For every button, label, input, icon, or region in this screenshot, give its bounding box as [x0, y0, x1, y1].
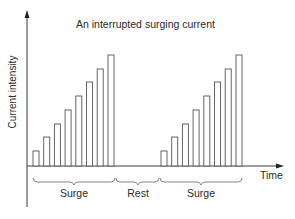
- bar: [87, 82, 93, 166]
- bar: [225, 69, 231, 166]
- brace-label-rest: Rest: [127, 187, 149, 199]
- brace-surge-1: [33, 178, 115, 185]
- bar: [204, 96, 210, 166]
- surge-group-2: [161, 55, 242, 166]
- x-axis-label: Time: [260, 169, 283, 181]
- bar: [54, 124, 60, 166]
- bar: [76, 96, 82, 166]
- brace-label-surge-1: Surge: [60, 187, 88, 199]
- bar: [161, 151, 167, 166]
- y-axis-arrow-icon: [25, 10, 30, 18]
- brace-surge-2: [160, 178, 242, 185]
- bar: [33, 151, 39, 166]
- chart-title: An interrupted surging current: [76, 18, 215, 30]
- bar: [215, 82, 221, 166]
- bar: [108, 55, 114, 166]
- y-axis-label: Current intensity: [7, 56, 18, 129]
- bar: [44, 137, 50, 166]
- bar: [182, 124, 188, 166]
- bar: [193, 110, 199, 166]
- bar: [236, 55, 242, 166]
- brace-rest: [116, 178, 159, 185]
- brace-label-surge-2: Surge: [187, 187, 215, 199]
- surging-current-chart: An interrupted surging current Current i…: [0, 0, 295, 219]
- bar: [97, 69, 103, 166]
- x-axis-arrow-icon: [276, 164, 284, 169]
- bar: [65, 110, 71, 166]
- surge-group-1: [33, 55, 114, 166]
- bar: [172, 137, 178, 166]
